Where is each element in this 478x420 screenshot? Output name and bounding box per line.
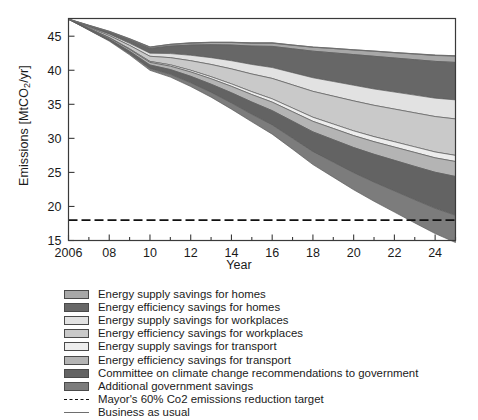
legend-label: Energy supply savings for transport <box>98 340 277 353</box>
legend-row[interactable]: Energy supply savings for transport <box>64 340 474 353</box>
legend-label: Additional government savings <box>98 380 253 393</box>
legend-swatch <box>64 316 89 325</box>
legend-row[interactable]: Energy supply savings for homes <box>64 288 474 301</box>
legend-label: Business as usual <box>98 406 190 419</box>
emissions-wedge-plot: 2006081012141618202224 15202530354045 <box>0 0 478 282</box>
legend-row[interactable]: Additional government savings <box>64 380 474 393</box>
x-axis-label: Year <box>0 258 478 272</box>
legend-label: Committee on climate change recommendati… <box>98 367 418 380</box>
legend-row[interactable]: Energy efficiency savings for transport <box>64 353 474 366</box>
legend-label: Energy supply savings for workplaces <box>98 314 289 327</box>
y-tick-label: 15 <box>48 234 62 248</box>
legend-swatch <box>64 290 89 299</box>
legend-swatch <box>64 342 89 351</box>
legend-label: Mayor's 60% Co2 emissions reduction targ… <box>98 393 324 406</box>
legend-row[interactable]: Committee on climate change recommendati… <box>64 367 474 380</box>
legend-swatch <box>64 303 89 312</box>
legend-solid-line-icon <box>64 408 89 417</box>
legend-row[interactable]: Energy efficiency savings for workplaces <box>64 327 474 340</box>
y-tick-label: 45 <box>48 30 62 44</box>
y-tick-label: 40 <box>48 64 62 78</box>
y-tick-label: 20 <box>48 200 62 214</box>
legend-swatch <box>64 329 89 338</box>
legend-swatch <box>64 369 89 378</box>
legend-dashdot-line-icon <box>64 395 89 404</box>
legend-label: Energy supply savings for homes <box>98 288 266 301</box>
legend-label: Energy efficiency savings for homes <box>98 301 280 314</box>
legend-row[interactable]: Mayor's 60% Co2 emissions reduction targ… <box>64 393 474 406</box>
chart-legend: Energy supply savings for homesEnergy ef… <box>64 288 474 419</box>
legend-swatch <box>64 356 89 365</box>
y-tick-label: 25 <box>48 166 62 180</box>
legend-row[interactable]: Business as usual <box>64 406 474 419</box>
chart-page: Emissions [MtCO2/yr] 2006081012141618202… <box>0 0 478 420</box>
x-axis-ticks-group: 2006081012141618202224 <box>55 235 456 260</box>
legend-swatch <box>64 382 89 391</box>
y-tick-label: 30 <box>48 132 62 146</box>
legend-row[interactable]: Energy supply savings for workplaces <box>64 314 474 327</box>
legend-label: Energy efficiency savings for workplaces <box>98 327 303 340</box>
legend-row[interactable]: Energy efficiency savings for homes <box>64 301 474 314</box>
y-axis-ticks-group: 15202530354045 <box>48 30 75 248</box>
chart-canvas: Emissions [MtCO2/yr] 2006081012141618202… <box>0 0 478 282</box>
legend-label: Energy efficiency savings for transport <box>98 354 291 367</box>
y-tick-label: 35 <box>48 98 62 112</box>
